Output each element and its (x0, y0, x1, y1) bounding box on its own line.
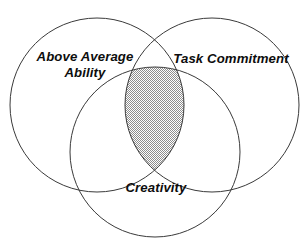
label-task-commitment: Task Commitment (163, 51, 299, 67)
venn-diagram-svg (0, 0, 306, 246)
label-above-average-ability: Above Average Ability (22, 49, 148, 80)
venn-diagram-figure: Renzulli's Three-Ring Conception (0, 0, 306, 246)
label-creativity: Creativity (103, 180, 209, 196)
